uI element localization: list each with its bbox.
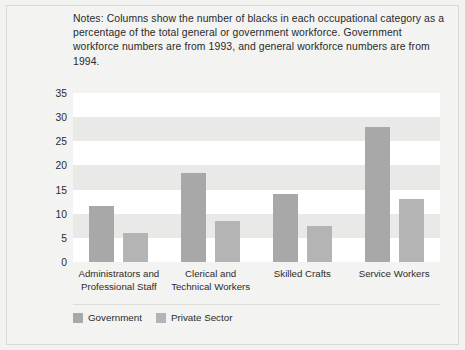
chart-legend: GovernmentPrivate Sector xyxy=(73,312,232,323)
bar-government xyxy=(89,206,114,262)
bar-private-sector xyxy=(123,233,148,262)
legend-swatch xyxy=(73,313,83,323)
plot-area: Percentage Black 05101520253035 Administ… xyxy=(73,93,440,262)
y-axis-tick-label: 15 xyxy=(43,184,67,195)
figure-container: Notes: Columns show the number of blacks… xyxy=(0,0,465,350)
legend-divider xyxy=(73,304,440,305)
x-axis-category-label: Clerical and Technical Workers xyxy=(165,268,257,293)
grid-band xyxy=(73,93,440,117)
bar-private-sector xyxy=(215,221,240,262)
legend-swatch xyxy=(156,313,166,323)
bar-private-sector xyxy=(307,226,332,262)
y-axis-tick-label: 35 xyxy=(43,88,67,99)
y-axis-tick-label: 5 xyxy=(43,232,67,243)
legend-label: Private Sector xyxy=(171,312,233,323)
y-axis-tick-label: 30 xyxy=(43,112,67,123)
bar-government xyxy=(273,194,298,262)
x-axis-category-label: Service Workers xyxy=(348,268,440,281)
legend-item: Private Sector xyxy=(156,312,233,323)
legend-label: Government xyxy=(88,312,142,323)
chart-notes: Notes: Columns show the number of blacks… xyxy=(73,12,448,69)
legend-item: Government xyxy=(73,312,142,323)
x-axis-category-label: Administrators and Professional Staff xyxy=(73,268,165,293)
y-axis-tick-label: 25 xyxy=(43,136,67,147)
bar-government xyxy=(365,127,390,262)
y-axis-tick-label: 20 xyxy=(43,160,67,171)
y-axis-tick-label: 10 xyxy=(43,208,67,219)
bar-private-sector xyxy=(399,199,424,262)
x-axis-category-label: Skilled Crafts xyxy=(257,268,349,281)
bar-government xyxy=(181,173,206,262)
y-axis-tick-label: 0 xyxy=(43,257,67,268)
